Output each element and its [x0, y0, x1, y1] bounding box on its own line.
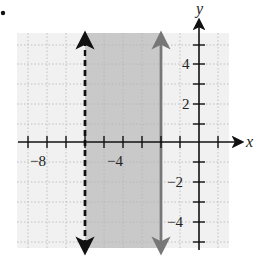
y-tick-label-m2: −2 [167, 174, 183, 190]
x-axis-label: x [245, 133, 253, 150]
y-axis-label: y [194, 0, 204, 18]
y-tick-label-4: 4 [182, 56, 190, 72]
problem-bullet [1, 11, 5, 15]
y-tick-label-2: 2 [182, 96, 190, 112]
x-tick-label-m4: −4 [107, 153, 123, 169]
inequality-graph: −8 −4 4 2 −2 −4 x y [0, 0, 256, 259]
y-tick-label-m4: −4 [167, 214, 183, 230]
x-tick-label-m8: −8 [30, 153, 46, 169]
